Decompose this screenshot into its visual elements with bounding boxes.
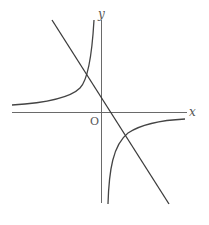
coordinate-graph: y x O xyxy=(0,0,209,225)
y-axis-label: y xyxy=(97,7,105,21)
hyperbola-branch-right xyxy=(108,119,185,204)
x-axis-label: x xyxy=(189,105,196,119)
origin-label: O xyxy=(90,115,99,128)
hyperbola-branch-left xyxy=(12,20,94,105)
